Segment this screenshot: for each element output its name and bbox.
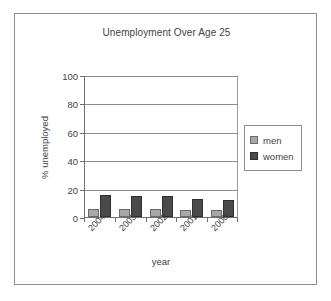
legend-swatch-icon <box>250 152 258 160</box>
y-axis-tick-label: 20 <box>67 185 78 196</box>
x-axis-tick-mark <box>176 218 177 222</box>
y-axis-tick-label: 0 <box>73 213 78 224</box>
legend-item-men[interactable]: men <box>250 132 296 148</box>
gridline <box>85 133 238 134</box>
y-axis-tick-label: 100 <box>62 71 78 82</box>
legend-label: women <box>263 151 294 162</box>
legend: menwomen <box>244 125 302 171</box>
y-axis-tick-mark <box>80 190 84 191</box>
y-axis-tick-mark <box>80 104 84 105</box>
y-axis-tick-label: 40 <box>67 156 78 167</box>
x-axis-tick-mark <box>237 218 238 222</box>
chart-frame: Unemployment Over Age 25 % unemployed 10… <box>14 13 317 285</box>
x-axis-tick-mark <box>207 218 208 222</box>
gridline <box>85 76 238 77</box>
gridline <box>85 161 238 162</box>
plot-right-border <box>237 76 238 218</box>
y-axis-tick-label: 60 <box>67 128 78 139</box>
y-axis-tick-mark <box>80 161 84 162</box>
y-axis-title-label: % unemployed <box>39 116 50 179</box>
y-axis-tick-mark <box>80 76 84 77</box>
y-axis-line <box>84 76 85 218</box>
x-axis-tick-mark <box>84 218 85 222</box>
legend-item-women[interactable]: women <box>250 148 296 164</box>
x-axis-tick-mark <box>146 218 147 222</box>
y-axis-tick-label: 80 <box>67 99 78 110</box>
x-axis-title: year <box>84 256 238 267</box>
x-axis-tick-mark <box>115 218 116 222</box>
legend-swatch-icon <box>250 136 258 144</box>
gridline <box>85 104 238 105</box>
gridline <box>85 190 238 191</box>
chart-title: Unemployment Over Age 25 <box>15 27 318 38</box>
y-axis-tick-mark <box>80 133 84 134</box>
y-axis-title: % unemployed <box>37 76 51 218</box>
legend-label: men <box>263 135 281 146</box>
plot-area: 100806040200 20042003200220012000 <box>84 76 238 218</box>
